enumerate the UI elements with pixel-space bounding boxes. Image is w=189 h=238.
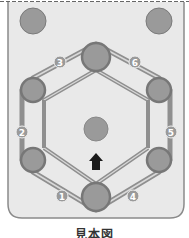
mount-circle-top-left — [20, 8, 46, 34]
center-circle — [84, 117, 108, 141]
diagram-caption: 見本図 — [0, 225, 189, 238]
mount-circle-top-right — [146, 8, 172, 34]
badge-label: 3 — [57, 58, 63, 68]
pulley-upper-right — [147, 78, 171, 102]
belt-routing-diagram: 1 2 3 4 5 6 — [0, 0, 189, 238]
badge-label: 2 — [19, 128, 25, 138]
pulley-bottom — [82, 183, 110, 211]
pulley-top — [82, 43, 110, 71]
pulley-lower-left — [21, 148, 45, 172]
badge-4: 4 — [127, 190, 139, 202]
pulley-lower-right — [147, 148, 171, 172]
pulley-upper-left — [21, 78, 45, 102]
badge-label: 6 — [132, 58, 138, 68]
badge-label: 4 — [130, 192, 136, 202]
badge-5: 5 — [165, 126, 177, 138]
badge-3: 3 — [54, 56, 66, 68]
badge-label: 1 — [59, 192, 65, 202]
badge-2: 2 — [16, 126, 28, 138]
badge-label: 5 — [168, 128, 174, 138]
badge-6: 6 — [129, 56, 141, 68]
badge-1: 1 — [56, 190, 68, 202]
